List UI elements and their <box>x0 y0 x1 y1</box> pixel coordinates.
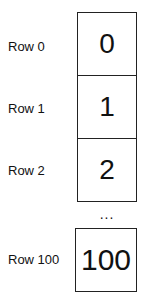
cell-value: 1 <box>99 91 115 123</box>
array-cell: 0 <box>77 12 137 76</box>
cell-value: 100 <box>81 243 131 277</box>
cell-value: 2 <box>99 154 115 186</box>
ellipsis: ... <box>77 209 137 219</box>
row-label: Row 0 <box>8 39 45 55</box>
array-cell: 100 <box>75 228 137 292</box>
row-label: Row 1 <box>8 101 45 117</box>
array-cell: 2 <box>77 138 137 202</box>
array-cell: 1 <box>77 75 137 139</box>
row-label: Row 2 <box>8 163 45 179</box>
row-label: Row 100 <box>8 252 59 268</box>
cell-value: 0 <box>99 28 115 60</box>
